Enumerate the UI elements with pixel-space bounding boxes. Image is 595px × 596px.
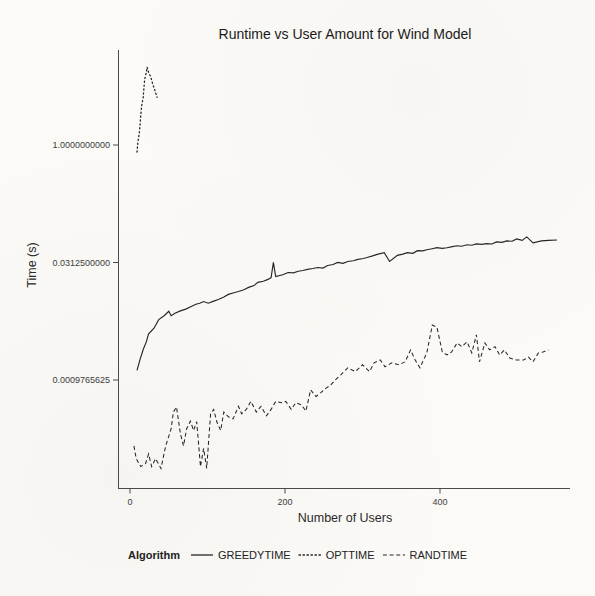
legend-label-randtime: RANDTIME — [410, 549, 467, 561]
solid-line-key-icon — [190, 550, 214, 560]
dotted-line-key-icon — [298, 550, 322, 560]
y-tick-label: 0.0009765625 — [52, 375, 110, 385]
legend-title: Algorithm — [128, 549, 180, 561]
legend: Algorithm GREEDYTIME OPTTIME RANDTIME — [0, 549, 595, 561]
chart-title: Runtime vs User Amount for Wind Model — [219, 26, 472, 42]
greedytime-line — [137, 237, 557, 370]
legend-label-greedytime: GREEDYTIME — [218, 549, 291, 561]
x-tick-label: 200 — [277, 497, 292, 507]
x-axis-ticks: 0 200 400 — [127, 489, 447, 508]
legend-item-randtime: RANDTIME — [382, 549, 467, 561]
y-axis-ticks: 1.0000000000 0.0312500000 0.0009765625 — [52, 140, 118, 385]
x-tick-label: 400 — [432, 497, 447, 507]
dashed-line-key-icon — [382, 550, 406, 560]
y-axis-title: Time (s) — [25, 242, 39, 287]
runtime-chart: Runtime vs User Amount for Wind Model 1.… — [0, 0, 595, 545]
randtime-line — [134, 325, 549, 468]
y-tick-label: 0.0312500000 — [52, 258, 110, 268]
legend-item-opttime: OPTTIME — [298, 549, 375, 561]
scanned-chart-page: Runtime vs User Amount for Wind Model 1.… — [0, 0, 595, 596]
x-tick-label: 0 — [127, 497, 132, 507]
opttime-line — [137, 67, 157, 152]
y-tick-label: 1.0000000000 — [52, 140, 110, 150]
x-axis-title: Number of Users — [298, 511, 392, 525]
legend-item-greedytime: GREEDYTIME — [190, 549, 291, 561]
legend-label-opttime: OPTTIME — [326, 549, 375, 561]
